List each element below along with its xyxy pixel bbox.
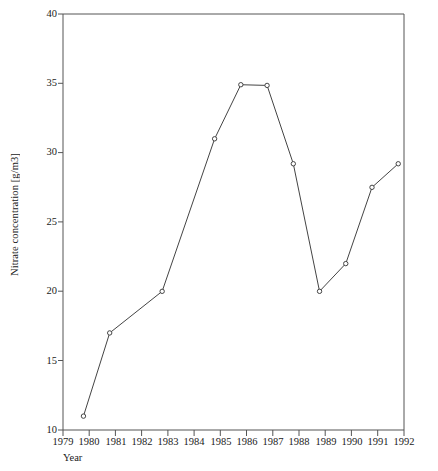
data-point-1989 <box>344 261 348 265</box>
data-point-markers <box>81 83 400 419</box>
data-point-1987 <box>291 162 295 166</box>
data-point-1988 <box>317 289 321 293</box>
data-point-1985 <box>239 83 243 87</box>
x-axis-ticks <box>63 430 404 436</box>
y-axis-ticks <box>58 14 63 430</box>
data-point-1990 <box>370 185 374 189</box>
data-point-1991 <box>396 162 400 166</box>
nitrate-concentration-line-chart: Nitrate concentration [g/m3] 40 35 30 25… <box>0 0 438 471</box>
data-series-line <box>83 85 398 416</box>
data-point-1980 <box>107 331 111 335</box>
data-point-1982 <box>160 289 164 293</box>
axis-frame <box>63 14 404 430</box>
plot-area <box>0 0 438 471</box>
data-point-1986 <box>265 83 269 87</box>
data-point-1984 <box>212 137 216 141</box>
data-point-1979 <box>81 414 85 418</box>
